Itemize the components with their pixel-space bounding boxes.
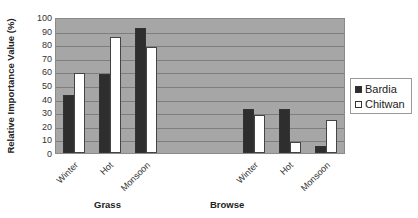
bar-bardia: [279, 109, 290, 153]
bar-bardia: [135, 28, 146, 153]
plot-area: [55, 18, 345, 154]
bar-chitwan: [110, 37, 121, 153]
x-tick: Hot: [278, 160, 295, 177]
y-axis-label: Relative Importance Value (%): [5, 18, 16, 153]
bar-chitwan: [146, 47, 157, 153]
x-tick: Hot: [98, 160, 115, 177]
bar-chitwan: [254, 115, 265, 153]
group-label-grass: Grass: [94, 199, 121, 210]
bar-bardia: [315, 146, 326, 153]
y-tick: 70: [22, 54, 52, 64]
legend-swatch-white-icon: [355, 101, 362, 108]
bar-bardia: [99, 74, 110, 153]
gridline: [56, 33, 344, 34]
legend-item-bardia: Bardia: [355, 83, 397, 95]
y-tick: 20: [22, 122, 52, 132]
legend-label: Bardia: [365, 83, 397, 95]
y-tick: 60: [22, 67, 52, 77]
y-tick: 90: [22, 27, 52, 37]
y-tick: 0: [22, 149, 52, 159]
y-tick: 10: [22, 135, 52, 145]
y-tick: 80: [22, 40, 52, 50]
group-label-browse: Browse: [210, 199, 244, 210]
legend: Bardia Chitwan: [350, 78, 412, 114]
bar-chitwan: [74, 73, 85, 153]
y-tick: 50: [22, 81, 52, 91]
y-tick: 100: [22, 13, 52, 23]
bar-chitwan: [290, 142, 301, 153]
legend-swatch-dark-icon: [355, 86, 362, 93]
x-tick: Monsoon: [119, 160, 152, 193]
legend-label: Chitwan: [365, 98, 405, 110]
x-tick: Winter: [235, 160, 260, 185]
bar-bardia: [63, 95, 74, 153]
gridline: [56, 60, 344, 61]
bar-bardia: [243, 109, 254, 153]
bar-chitwan: [326, 120, 337, 153]
y-tick: 40: [22, 95, 52, 105]
legend-item-chitwan: Chitwan: [355, 98, 405, 110]
y-tick: 30: [22, 108, 52, 118]
gridline: [56, 46, 344, 47]
x-tick: Monsoon: [299, 160, 332, 193]
x-tick: Winter: [55, 160, 80, 185]
